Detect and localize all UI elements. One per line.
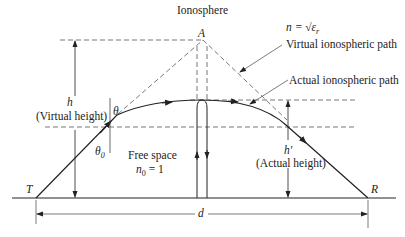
ray-arrow-down <box>300 137 306 143</box>
receiver-label: R <box>371 184 378 196</box>
virtual-height-label: (Virtual height) <box>36 111 107 123</box>
virtual-height-symbol: h <box>67 97 73 109</box>
free-space-label: Free space <box>128 150 177 162</box>
theta0-label: θ0 <box>95 146 105 160</box>
actual-height-symbol: h′ <box>284 145 292 157</box>
free-space-index: n0 = 1 <box>136 164 164 178</box>
virtual-path-leader <box>240 45 282 72</box>
actual-height-label: (Actual height) <box>256 158 326 170</box>
ionosphere-title: Ionosphere <box>177 5 228 17</box>
vertical-ray <box>197 100 207 198</box>
refractive-index-label: n = √εr <box>286 22 319 36</box>
transmitter-label: T <box>26 184 32 196</box>
actual-path-label: Actual ionospheric path <box>289 75 399 87</box>
virtual-path-label: Virtual ionospheric path <box>286 39 397 51</box>
theta-label: θ <box>113 106 119 118</box>
apex-label: A <box>198 28 205 40</box>
distance-label: d <box>198 208 204 220</box>
